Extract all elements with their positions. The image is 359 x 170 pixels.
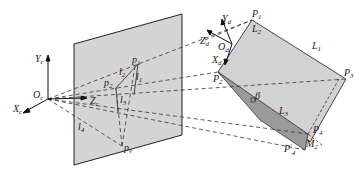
xc-label: Xc bbox=[12, 103, 23, 116]
projection-diagram: Yc Oc Xc Zc p1 p2 pv l1 l2 l3 l4 Yd Zd O… bbox=[0, 0, 359, 170]
od-label: Od bbox=[218, 41, 229, 54]
yc-label: Yc bbox=[35, 53, 45, 66]
M2-label: M2 bbox=[305, 138, 318, 151]
L1-label: L1 bbox=[311, 40, 321, 53]
P1-label: P1 bbox=[251, 8, 262, 21]
xd-label: Xd bbox=[211, 54, 222, 67]
oc-label: Oc bbox=[33, 89, 44, 102]
P4-prime-label: P′4 bbox=[283, 142, 296, 157]
